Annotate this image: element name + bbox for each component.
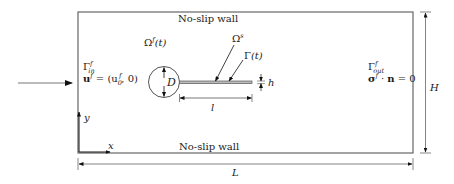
- interface-label: Γ(t): [244, 51, 263, 61]
- diagram-graphics: [0, 0, 454, 184]
- bottom-wall-label: No-slip wall: [179, 142, 239, 152]
- thickness-label: h: [268, 78, 274, 88]
- channel-height-label: H: [430, 83, 439, 93]
- flag-length-label: l: [211, 103, 214, 113]
- solid-domain-pointer-icon: [216, 45, 235, 81]
- diameter-label: D: [167, 77, 176, 88]
- fluid-domain-label: Ωf(t): [144, 38, 167, 48]
- interface-pointer-icon: [229, 60, 243, 81]
- top-wall-label: No-slip wall: [178, 14, 238, 24]
- channel-length-label: L: [232, 168, 239, 178]
- solid-domain-label: Ωs: [232, 34, 244, 44]
- elastic-flag: [180, 81, 253, 84]
- inlet-boundary-label: Γfin: [83, 62, 95, 72]
- y-axis-label: y: [84, 113, 90, 123]
- outlet-condition-label: σf · n = 0: [368, 74, 416, 84]
- x-axis-label: x: [108, 141, 114, 151]
- outlet-boundary-label: Γfout: [368, 62, 384, 72]
- inlet-condition-label: uf = (u0f, 0): [83, 74, 138, 84]
- fsi-domain-diagram: No-slip wall No-slip wall Ωf(t) Ωs Γ(t) …: [0, 0, 454, 184]
